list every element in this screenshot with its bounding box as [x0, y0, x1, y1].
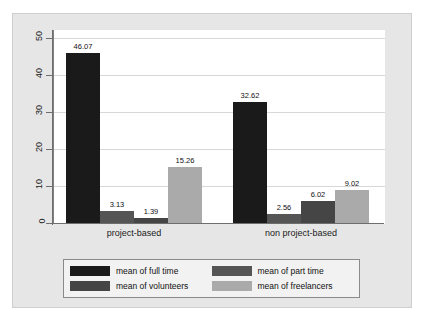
chart-legend: mean of full time mean of part time mean…	[63, 259, 360, 298]
y-tick-label-text: 20	[34, 142, 44, 152]
legend-entry-freelancers[interactable]: mean of freelancers	[212, 281, 354, 291]
y-tick-mark-0	[46, 223, 52, 224]
y-tick-mark-20	[46, 149, 52, 150]
legend-swatch-freelancers	[212, 281, 252, 291]
y-tick-label-30: 30	[0, 105, 44, 115]
legend-entry-volunteers[interactable]: mean of volunteers	[70, 281, 212, 291]
y-tick-label-0: 0	[0, 216, 44, 226]
x-tick-label-non-project-based: non project-based	[241, 228, 361, 238]
bar-chart-figure: 01020304050 46.073.131.3915.2632.622.566…	[0, 0, 424, 322]
gridline-50	[54, 38, 385, 39]
bar-project-based-mean-of-volunteers[interactable]	[134, 218, 168, 223]
y-tick-label-text: 10	[34, 179, 44, 189]
y-tick-label-50: 50	[0, 31, 44, 41]
legend-entry-full-time[interactable]: mean of full time	[70, 266, 212, 276]
y-tick-label-text: 30	[34, 105, 44, 115]
bar-non-project-based-mean-of-volunteers[interactable]	[301, 201, 335, 223]
y-tick-mark-40	[46, 75, 52, 76]
x-axis-line	[53, 223, 384, 224]
y-tick-label-text: 0	[36, 218, 46, 223]
y-tick-mark-30	[46, 112, 52, 113]
gridline-20	[54, 149, 385, 150]
legend-entry-part-time[interactable]: mean of part time	[212, 266, 354, 276]
bar-non-project-based-mean-of-freelancers[interactable]	[335, 190, 369, 223]
bar-value-label: 9.02	[327, 179, 377, 188]
gridline-30	[54, 112, 385, 113]
y-tick-label-40: 40	[0, 68, 44, 78]
y-tick-label-20: 20	[0, 142, 44, 152]
y-tick-label-text: 40	[34, 68, 44, 78]
bar-project-based-mean-of-freelancers[interactable]	[168, 167, 202, 223]
bar-value-label: 46.07	[58, 42, 108, 51]
y-tick-mark-50	[46, 38, 52, 39]
legend-swatch-volunteers	[70, 281, 110, 291]
y-tick-label-text: 50	[34, 31, 44, 41]
legend-label-full-time: mean of full time	[116, 266, 178, 276]
legend-swatch-part-time	[212, 266, 252, 276]
legend-label-part-time: mean of part time	[258, 266, 324, 276]
legend-label-volunteers: mean of volunteers	[116, 281, 188, 291]
bar-project-based-mean-of-full-time[interactable]	[66, 53, 100, 223]
bar-non-project-based-mean-of-part-time[interactable]	[267, 214, 301, 223]
x-tick-label-project-based: project-based	[74, 228, 194, 238]
y-axis-line	[52, 30, 53, 225]
bar-value-label: 32.62	[225, 91, 275, 100]
legend-label-freelancers: mean of freelancers	[258, 281, 333, 291]
y-tick-label-10: 10	[0, 179, 44, 189]
legend-swatch-full-time	[70, 266, 110, 276]
y-tick-mark-10	[46, 186, 52, 187]
gridline-40	[54, 75, 385, 76]
bar-value-label: 15.26	[160, 156, 210, 165]
